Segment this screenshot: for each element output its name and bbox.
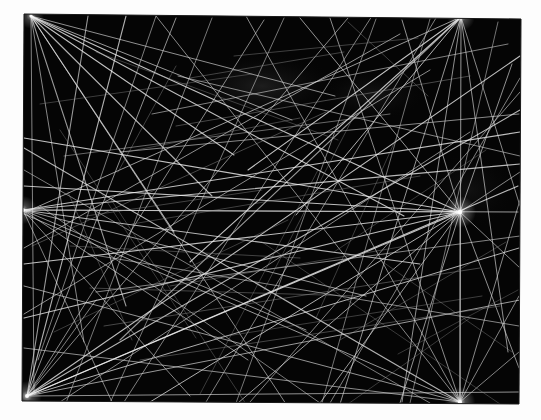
vertex-hub-core xyxy=(29,14,33,18)
artwork-stage: Line Art Panel Radiating straight-line c… xyxy=(0,0,541,420)
line-art-canvas xyxy=(0,0,541,420)
vertex-hub-core xyxy=(25,394,29,398)
vertex-hub-core xyxy=(458,210,462,214)
haze-glow xyxy=(318,69,426,121)
